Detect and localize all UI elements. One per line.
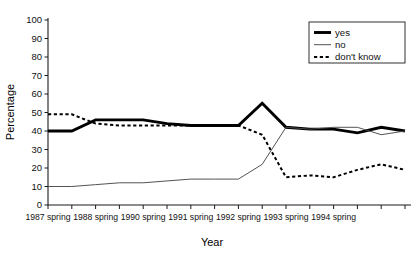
- legend-label: don't know: [335, 51, 381, 62]
- y-tick-label: 70: [31, 70, 42, 81]
- line-chart: 0102030405060708090100 1987 spring1988 s…: [0, 0, 420, 253]
- y-tick-label: 90: [31, 33, 42, 44]
- y-tick-label: 10: [31, 181, 42, 192]
- y-tick-label: 50: [31, 107, 42, 118]
- x-tick-label: 1990 spring: [121, 212, 166, 222]
- legend-label: yes: [335, 27, 350, 38]
- series-line-yes: [48, 103, 405, 133]
- x-tick-label: 1987 spring: [26, 212, 71, 222]
- legend-label: no: [335, 39, 346, 50]
- y-tick-label: 40: [31, 125, 42, 136]
- y-axis: 0102030405060708090100: [26, 14, 48, 210]
- y-tick-label: 60: [31, 88, 42, 99]
- x-tick-label: 1992 spring: [216, 212, 261, 222]
- x-tick-label: 1991 spring: [168, 212, 213, 222]
- x-axis: 1987 spring1988 spring1990 spring1991 sp…: [26, 205, 411, 222]
- x-tick-label: 1993 spring: [264, 212, 309, 222]
- series-line-no: [48, 127, 405, 186]
- y-tick-label: 20: [31, 162, 42, 173]
- chart-container: 0102030405060708090100 1987 spring1988 s…: [0, 0, 420, 253]
- y-tick-label: 100: [26, 14, 42, 25]
- x-axis-title: Year: [201, 236, 224, 248]
- y-axis-title: Percentage: [4, 84, 16, 140]
- x-tick-label: 1994 spring: [311, 212, 356, 222]
- y-tick-label: 80: [31, 51, 42, 62]
- y-tick-label: 30: [31, 144, 42, 155]
- series-line-don-t-know: [48, 114, 405, 177]
- legend: yesnodon't know: [309, 22, 405, 63]
- x-tick-label: 1988 spring: [73, 212, 118, 222]
- series-lines: [48, 103, 405, 186]
- y-tick-label: 0: [37, 199, 42, 210]
